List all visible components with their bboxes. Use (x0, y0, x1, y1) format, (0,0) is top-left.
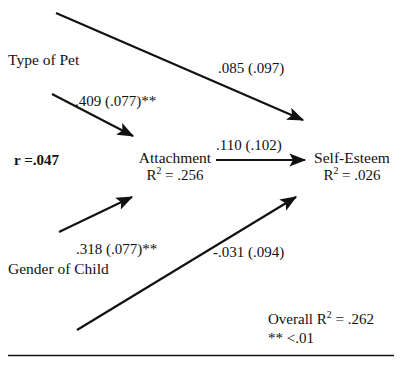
node-attachment-name: Attachment (127, 150, 223, 167)
path-diagram: Type of Pet Gender of Child r =.047 Atta… (0, 0, 402, 369)
path-label-pet-to-self-esteem: .085 (.097) (218, 60, 284, 76)
r-squared-symbol: R (323, 167, 333, 183)
node-self-esteem-name: Self-Esteem (304, 150, 400, 167)
path-label-gender-to-attachment: .318 (.077)** (76, 241, 157, 257)
note-significance: ** <.01 (268, 330, 314, 346)
r-squared-value: = .256 (161, 167, 203, 183)
node-self-esteem-r-squared: R2 = .026 (304, 167, 400, 183)
overall-r-squared-prefix: Overall R (268, 311, 327, 327)
arrow-gender-to-attachment (59, 197, 132, 232)
r-squared-value: = .026 (338, 167, 380, 183)
node-attachment: Attachment R2 = .256 (127, 150, 223, 183)
path-label-gender-to-self-esteem: -.031 (.094) (213, 244, 284, 260)
node-label-gender-of-child: Gender of Child (8, 261, 109, 278)
path-label-attachment-to-self-esteem: .110 (.102) (216, 137, 282, 153)
correlation-label: r =.047 (14, 152, 59, 168)
node-attachment-r-squared: R2 = .256 (127, 167, 223, 183)
path-label-pet-to-attachment: .409 (.077)** (75, 93, 156, 109)
node-label-type-of-pet: Type of Pet (8, 52, 79, 69)
node-self-esteem: Self-Esteem R2 = .026 (304, 150, 400, 183)
r-squared-symbol: R (146, 167, 156, 183)
arrow-gender-to-self-esteem (77, 197, 296, 330)
overall-r-squared-value: = .262 (332, 311, 374, 327)
note-overall-r-squared: Overall R2 = .262 (268, 311, 374, 327)
